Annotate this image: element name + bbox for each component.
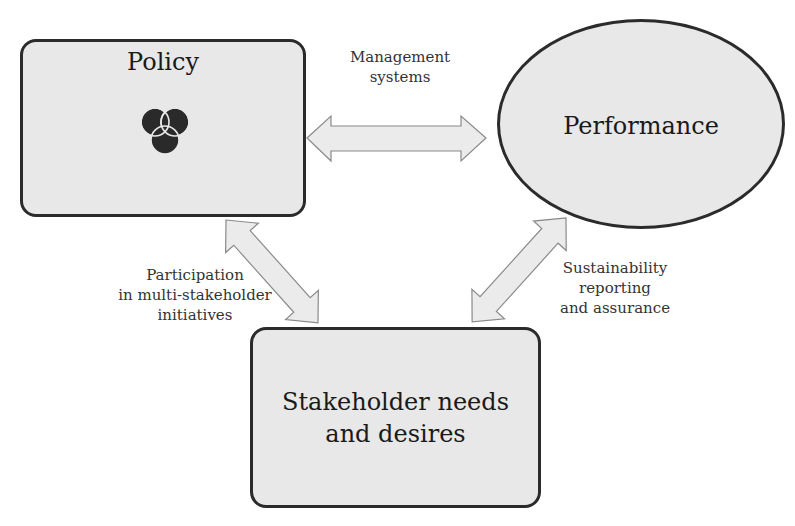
- double-arrow-policy-performance: [307, 116, 486, 161]
- label-line: reporting: [555, 278, 675, 298]
- participation-label: Participation in multi-stakeholder initi…: [110, 265, 280, 325]
- label-line: and assurance: [555, 298, 675, 318]
- label-line: Participation: [110, 265, 280, 285]
- policy-node: Policy: [20, 39, 306, 217]
- policy-title: Policy: [23, 47, 303, 77]
- diagram-canvas: Policy Performance Stakeholder needs and…: [0, 0, 795, 526]
- stakeholder-title: Stakeholder needs and desires: [282, 386, 509, 450]
- venn-triad-icon: [138, 102, 194, 158]
- label-line: initiatives: [110, 305, 280, 325]
- label-line: Sustainability: [555, 258, 675, 278]
- sustainability-reporting-label: Sustainability reporting and assurance: [555, 258, 675, 318]
- performance-title: Performance: [563, 111, 719, 141]
- label-line: in multi-stakeholder: [110, 285, 280, 305]
- stakeholder-title-line2: and desires: [282, 418, 509, 450]
- performance-node: Performance: [497, 19, 785, 229]
- management-systems-label: Management systems: [330, 47, 470, 87]
- label-line: Management: [330, 47, 470, 67]
- stakeholder-title-line1: Stakeholder needs: [282, 386, 509, 418]
- stakeholder-node: Stakeholder needs and desires: [250, 327, 541, 508]
- label-line: systems: [330, 67, 470, 87]
